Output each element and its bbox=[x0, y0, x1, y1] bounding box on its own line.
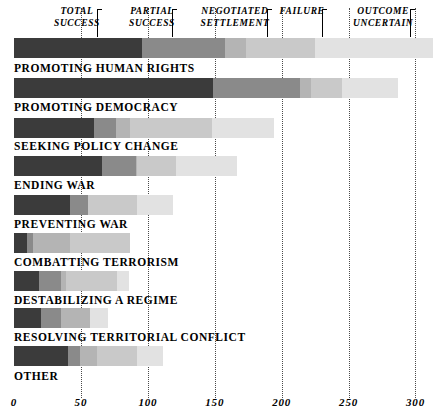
legend-label-2: NEGOTIATEDSETTLEMENT bbox=[201, 6, 270, 29]
bar-segment-0 bbox=[14, 346, 68, 366]
bar-segment-0 bbox=[14, 156, 102, 176]
bar-segment-1 bbox=[94, 118, 115, 138]
bar-segment-1 bbox=[39, 271, 60, 291]
category-label: PROMOTING HUMAN RIGHTS bbox=[14, 62, 195, 74]
legend-color-bar bbox=[14, 38, 433, 58]
stacked-bar bbox=[14, 78, 398, 98]
category-label: ENDING WAR bbox=[14, 179, 95, 191]
bar-segment-1 bbox=[41, 308, 61, 328]
x-tick-label-300: 300 bbox=[406, 396, 425, 408]
category-label: COMBATTING TERRORISM bbox=[14, 256, 179, 268]
x-tick-label-150: 150 bbox=[205, 396, 224, 408]
x-tick-label-200: 200 bbox=[272, 396, 291, 408]
legend-label-0: TOTALSUCCESS bbox=[54, 6, 100, 29]
bar-segment-4 bbox=[90, 308, 107, 328]
bar-segment-1 bbox=[102, 156, 135, 176]
x-axis: 050100150200250300 bbox=[0, 396, 446, 418]
bar-segment-3 bbox=[88, 195, 138, 215]
legend-leader-line-2 bbox=[267, 9, 272, 37]
legend-leader-line-1 bbox=[172, 9, 177, 37]
legend-swatch-1 bbox=[142, 38, 225, 58]
legend-leader-line-0 bbox=[97, 9, 102, 37]
category-label: PREVENTING WAR bbox=[14, 218, 128, 230]
bar-segment-4 bbox=[117, 271, 129, 291]
stacked-bar bbox=[14, 308, 108, 328]
bar-segment-0 bbox=[14, 195, 70, 215]
stacked-bar-chart: TOTALSUCCESSPARTIALSUCCESSNEGOTIATEDSETT… bbox=[0, 0, 446, 418]
legend-leader-line-3 bbox=[322, 9, 327, 37]
gridline-200 bbox=[282, 8, 283, 398]
bar-segment-4 bbox=[176, 156, 238, 176]
bar-segment-0 bbox=[14, 233, 27, 253]
bar-segment-3 bbox=[70, 233, 130, 253]
x-tick-label-100: 100 bbox=[138, 396, 157, 408]
bar-segment-0 bbox=[14, 78, 213, 98]
legend-label-4: OUTCOMEUNCERTAIN bbox=[353, 6, 413, 29]
stacked-bar bbox=[14, 195, 173, 215]
bar-segment-4 bbox=[137, 346, 162, 366]
legend-swatch-3 bbox=[246, 38, 316, 58]
x-tick-label-50: 50 bbox=[75, 396, 88, 408]
bar-segment-0 bbox=[14, 118, 94, 138]
category-label: PROMOTING DEMOCRACY bbox=[14, 101, 178, 113]
legend-label-3: FAILURE bbox=[280, 6, 325, 18]
bar-segment-2 bbox=[300, 78, 311, 98]
bar-segment-3 bbox=[137, 156, 176, 176]
bar-segment-1 bbox=[213, 78, 300, 98]
bar-segment-3 bbox=[130, 118, 212, 138]
x-tick-label-0: 0 bbox=[11, 396, 17, 408]
category-label: DESTABILIZING A REGIME bbox=[14, 294, 178, 306]
bar-segment-2 bbox=[80, 346, 97, 366]
stacked-bar bbox=[14, 346, 163, 366]
bar-segment-4 bbox=[137, 195, 173, 215]
bar-segment-2 bbox=[33, 233, 70, 253]
legend-swatch-2 bbox=[225, 38, 245, 58]
bar-segment-3 bbox=[311, 78, 342, 98]
category-label: RESOLVING TERRITORIAL CONFLICT bbox=[14, 331, 246, 343]
gridline-250 bbox=[349, 8, 350, 398]
bar-segment-1 bbox=[68, 346, 80, 366]
bar-segment-0 bbox=[14, 308, 41, 328]
bar-segment-3 bbox=[66, 271, 117, 291]
bar-segment-1 bbox=[70, 195, 87, 215]
chart-legend: TOTALSUCCESSPARTIALSUCCESSNEGOTIATEDSETT… bbox=[0, 0, 446, 38]
stacked-bar bbox=[14, 271, 129, 291]
category-label: OTHER bbox=[14, 370, 58, 382]
bar-segment-2 bbox=[116, 118, 131, 138]
gridline-300 bbox=[415, 8, 416, 398]
bar-segment-0 bbox=[14, 271, 39, 291]
category-label: SEEKING POLICY CHANGE bbox=[14, 140, 178, 152]
bar-segment-3 bbox=[97, 346, 137, 366]
legend-swatch-0 bbox=[14, 38, 142, 58]
bar-segment-2 bbox=[61, 308, 90, 328]
bar-segment-4 bbox=[342, 78, 398, 98]
x-tick-label-250: 250 bbox=[339, 396, 358, 408]
stacked-bar bbox=[14, 156, 237, 176]
stacked-bar bbox=[14, 118, 274, 138]
legend-swatch-4 bbox=[315, 38, 433, 58]
legend-leader-line-4 bbox=[410, 9, 415, 37]
stacked-bar bbox=[14, 233, 130, 253]
legend-label-1: PARTIALSUCCESS bbox=[129, 6, 175, 29]
bar-segment-4 bbox=[212, 118, 274, 138]
